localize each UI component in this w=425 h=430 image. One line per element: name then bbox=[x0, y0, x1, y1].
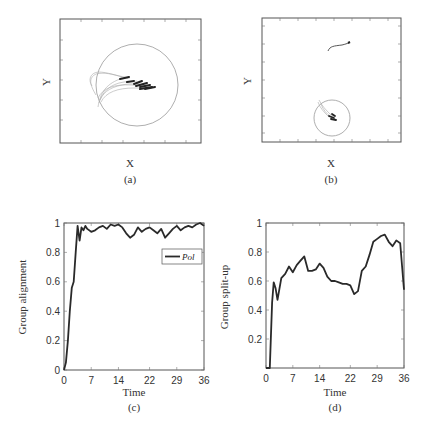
y-tick-label: 1 bbox=[256, 218, 262, 229]
y-tick-label: 0.4 bbox=[46, 306, 60, 317]
y-tick-label: 1 bbox=[54, 218, 60, 229]
y-axis-label-b: Y bbox=[241, 77, 253, 85]
x-axis-label-a: X bbox=[126, 157, 134, 169]
agent-trails-b bbox=[318, 100, 334, 118]
x-tick-label: 36 bbox=[398, 373, 410, 384]
split-up-line bbox=[266, 235, 404, 368]
y-axis-label-d: Group split-up bbox=[218, 264, 230, 329]
y-tick-label: 0.2 bbox=[248, 334, 262, 345]
panel-c: 071422293600.20.40.60.81 Pol Time Group … bbox=[16, 218, 210, 415]
x-axis-label-d: Time bbox=[324, 386, 347, 398]
y-tick-label: 0.2 bbox=[46, 335, 60, 346]
split-trajectory bbox=[328, 42, 350, 51]
plot-b-frame bbox=[262, 18, 401, 142]
y-tick-label: 0 bbox=[54, 365, 60, 376]
panel-d: 07142229360.20.40.60.81 Time Group split… bbox=[218, 218, 410, 415]
x-tick-label: 0 bbox=[263, 373, 269, 384]
x-tick-label: 29 bbox=[372, 373, 384, 384]
x-tick-label: 0 bbox=[61, 375, 67, 386]
y-tick-label: 0.4 bbox=[248, 305, 262, 316]
x-tick-label: 14 bbox=[113, 375, 125, 386]
agent-heads bbox=[120, 77, 155, 89]
caption-a: (a) bbox=[124, 173, 137, 186]
panel-b: X Y (b) bbox=[241, 18, 401, 186]
x-axis-label-c: Time bbox=[123, 386, 146, 398]
x-tick-label: 36 bbox=[198, 375, 210, 386]
x-tick-label: 22 bbox=[144, 375, 156, 386]
figure: X Y (a) X Y (b) bbox=[0, 0, 425, 430]
y-axis-label-a: Y bbox=[40, 78, 52, 86]
legend-label-pol: Pol bbox=[181, 252, 195, 262]
x-tick-label: 7 bbox=[88, 375, 94, 386]
x-tick-label: 29 bbox=[171, 375, 183, 386]
x-tick-label: 22 bbox=[345, 373, 357, 384]
panel-a: X Y (a) bbox=[40, 19, 201, 186]
pol-line bbox=[64, 223, 204, 370]
x-tick-label: 7 bbox=[290, 373, 296, 384]
y-axis-label-c: Group alignment bbox=[16, 260, 28, 335]
plot-c-frame bbox=[64, 223, 204, 370]
x-axis-label-b: X bbox=[327, 157, 335, 169]
legend-c: Pol bbox=[162, 249, 202, 264]
caption-c: (c) bbox=[128, 401, 141, 414]
caption-d: (d) bbox=[329, 401, 342, 414]
caption-b: (b) bbox=[325, 173, 338, 186]
plot-d-frame bbox=[266, 223, 404, 368]
y-tick-label: 0.8 bbox=[46, 247, 60, 258]
y-tick-label: 0.6 bbox=[46, 276, 60, 287]
x-tick-label: 14 bbox=[314, 373, 326, 384]
agent-heads-b bbox=[329, 114, 336, 120]
y-tick-label: 0.8 bbox=[248, 247, 262, 258]
y-tick-label: 0.6 bbox=[248, 276, 262, 287]
split-head bbox=[348, 42, 350, 43]
